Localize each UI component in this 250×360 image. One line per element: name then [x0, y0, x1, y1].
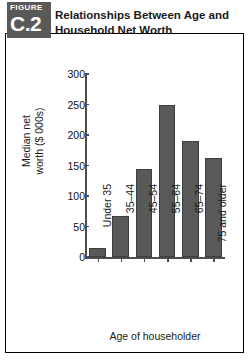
y-tick-label-0: 0 [51, 252, 85, 262]
y-tick-label-300: 300 [51, 69, 85, 79]
x-tick-4 [190, 258, 192, 262]
x-axis-title: Age of householder [95, 330, 215, 342]
y-tick-label-wrap-150: 150 [45, 161, 85, 171]
x-category-label-0: Under 35 [102, 184, 113, 264]
bar-chart: 050100150200250300 Median net worth ($ 0… [0, 0, 250, 360]
y-tick-label-wrap-200: 200 [45, 130, 85, 140]
figure-badge: FIGURE C.2 [7, 2, 51, 38]
y-axis-title: Median net worth ($ 000s) [20, 86, 46, 196]
x-tick-0 [98, 258, 100, 262]
figure-title-line-1: Relationships Between Age and [55, 8, 240, 23]
x-tick-5 [213, 258, 215, 262]
figure-badge-kicker: FIGURE [10, 3, 51, 12]
x-tick-2 [144, 258, 146, 262]
y-tick-label-wrap-250: 250 [45, 100, 85, 110]
y-axis-title-line-1: Median net [20, 86, 33, 196]
y-tick-label-wrap-0: 0 [45, 252, 85, 262]
x-category-label-5: 75 and older [217, 184, 228, 264]
figure-title-line-2: Household Net Worth [55, 23, 240, 38]
y-tick-label-wrap-300: 300 [45, 69, 85, 79]
y-tick-label-wrap-100: 100 [45, 191, 85, 201]
x-category-label-1: 35–44 [125, 184, 136, 264]
x-category-label-2: 45–54 [148, 184, 159, 264]
y-tick-label-50: 50 [51, 222, 85, 232]
y-tick-label-100: 100 [51, 191, 85, 201]
y-tick-label-250: 250 [51, 100, 85, 110]
y-tick-label-wrap-50: 50 [45, 222, 85, 232]
x-category-label-4: 65–74 [194, 184, 205, 264]
x-tick-3 [167, 258, 169, 262]
figure-title: Relationships Between Age and Household … [55, 8, 240, 38]
y-tick-label-150: 150 [51, 161, 85, 171]
x-tick-1 [121, 258, 123, 262]
y-axis-title-line-2: worth ($ 000s) [33, 86, 46, 196]
x-category-label-3: 55–64 [171, 184, 182, 264]
figure-badge-number: C.2 [10, 12, 51, 35]
y-tick-label-200: 200 [51, 130, 85, 140]
